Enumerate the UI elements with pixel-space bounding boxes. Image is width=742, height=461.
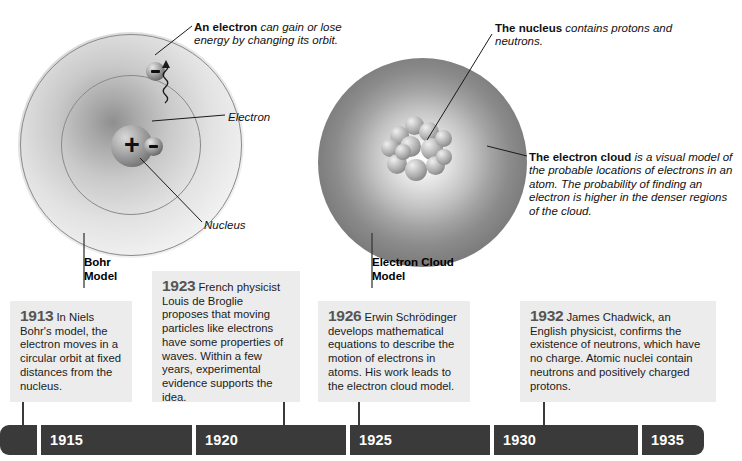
timeline-segment-1930: 1930	[494, 425, 638, 455]
timeline-segment-1925: 1925	[350, 425, 490, 455]
timeline-event-text: French physicist Louis de Broglie propos…	[162, 281, 283, 403]
callout-electron-energy: An electron can gain or lose energy by c…	[194, 21, 344, 48]
timeline-axis-label: 1925	[359, 432, 392, 448]
bohr-model-title: BohrModel	[84, 256, 117, 283]
timeline-axis-label: 1935	[651, 432, 684, 448]
timeline-event-1923: 1923 French physicist Louis de Broglie p…	[152, 271, 300, 402]
timeline-axis-label: 1915	[50, 432, 83, 448]
callout-electron-cloud-description: The electron cloud is a visual model of …	[529, 151, 737, 218]
timeline-tick-1932	[543, 402, 545, 426]
timeline-event-1926: 1926 Erwin Schrödinger develops mathemat…	[318, 301, 470, 402]
timeline-segment-1920: 1920	[196, 425, 346, 455]
timeline-tick-1926	[358, 402, 360, 426]
callout-cloud-desc-bold: The electron cloud	[529, 151, 631, 163]
callout-electron-energy-bold: An electron	[194, 21, 257, 33]
timeline-segment-1935: 1935	[642, 425, 704, 455]
timeline-axis-label: 1920	[205, 432, 238, 448]
callout-nucleus-label: Nucleus	[204, 219, 246, 232]
callout-cloud-nucleus-bold: The nucleus	[495, 22, 562, 34]
timeline-segment-start	[0, 425, 37, 455]
timeline-event-year: 1923	[162, 277, 195, 294]
timeline-event-year: 1932	[530, 307, 563, 324]
callout-electron-label: Electron	[228, 111, 270, 124]
callout-cloud-nucleus: The nucleus contains protons and neutron…	[495, 22, 695, 49]
timeline-tick-1913	[22, 402, 24, 426]
callout-electron-label-text: Electron	[228, 111, 270, 123]
diagram-canvas: +	[0, 0, 742, 461]
timeline-axis-bar: 1915 1920 1925 1930 1935	[0, 425, 704, 455]
timeline-event-year: 1913	[20, 307, 53, 324]
timeline-event-1913: 1913 In Niels Bohr's model, the electron…	[10, 301, 132, 402]
timeline-event-year: 1926	[328, 307, 361, 324]
timeline-axis-label: 1930	[503, 432, 536, 448]
timeline-tick-1923	[283, 402, 285, 426]
callout-nucleus-label-text: Nucleus	[204, 219, 246, 231]
timeline-event-1932: 1932 James Chadwick, an English physicis…	[520, 301, 716, 402]
timeline-segment-1915: 1915	[41, 425, 192, 455]
electron-cloud-model-title: Electron CloudModel	[372, 256, 492, 283]
